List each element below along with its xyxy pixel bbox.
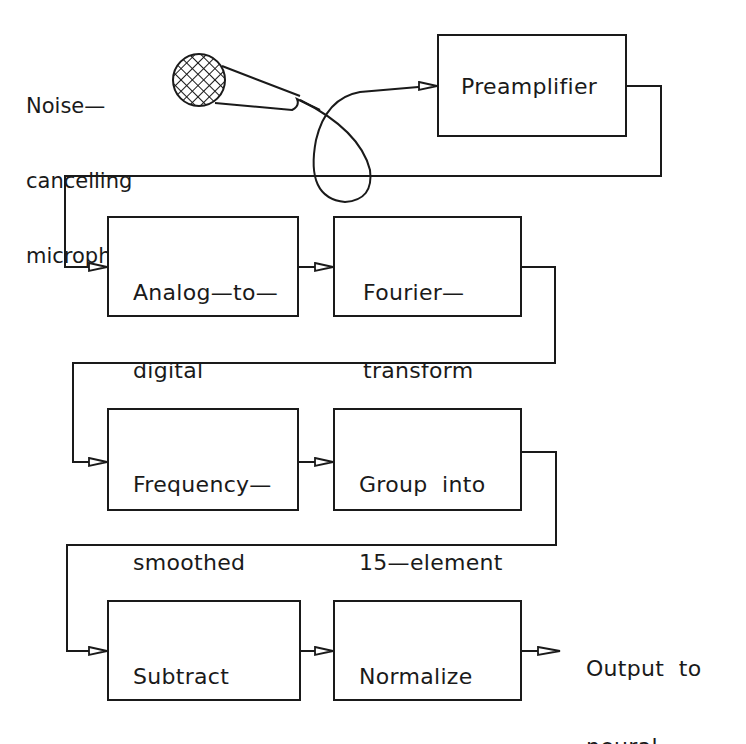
frequency-smoothed-logarithm-block: Frequency— smoothed logarithm bbox=[107, 408, 299, 511]
output-label: Output to neural network bbox=[586, 604, 702, 744]
group-into-vector-block: Group into 15—element vector bbox=[333, 408, 522, 511]
fourier-transform-chip-block: Fourier— transform chip bbox=[333, 216, 522, 317]
preamplifier-label: Preamplifier bbox=[461, 74, 597, 100]
subtract-average-block: Subtract average (shift zero) bbox=[107, 600, 301, 701]
normalize-block: Normalize to unit length bbox=[333, 600, 522, 701]
microphone-handle bbox=[215, 66, 320, 110]
analog-to-digital-converter-block: Analog—to— digital converter bbox=[107, 216, 299, 317]
microphone-icon bbox=[173, 54, 225, 106]
microphone-cable bbox=[300, 86, 430, 202]
preamplifier-block: Preamplifier bbox=[437, 34, 627, 137]
